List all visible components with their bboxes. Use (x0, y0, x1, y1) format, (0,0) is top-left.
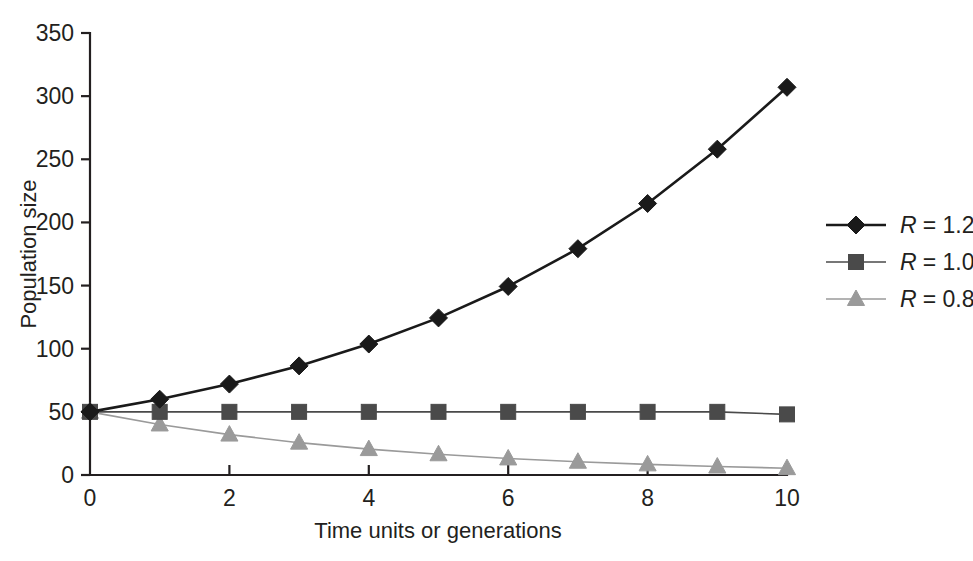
marker-square (640, 404, 655, 419)
chart-figure: 050100150200250300350 0246810 Population… (0, 0, 973, 561)
x-axis-title: Time units or generations (314, 518, 561, 543)
y-tick-label: 0 (61, 462, 74, 488)
y-tick-label: 150 (36, 273, 74, 299)
marker-square (849, 255, 864, 270)
x-tick-label: 6 (502, 485, 515, 511)
chart-background (0, 0, 973, 561)
marker-square (361, 404, 376, 419)
marker-square (570, 404, 585, 419)
legend-value: = 0.8 (923, 286, 973, 312)
y-tick-label: 300 (36, 83, 74, 109)
x-tick-label: 4 (362, 485, 375, 511)
legend-r-symbol: R (900, 286, 917, 312)
x-tick-label: 0 (84, 485, 97, 511)
marker-square (501, 404, 516, 419)
y-tick-label: 50 (48, 399, 74, 425)
legend-label: R= 1.0 (900, 249, 973, 275)
legend-r-symbol: R (900, 249, 917, 275)
y-tick-label: 350 (36, 20, 74, 46)
legend-label: R= 1.2 (900, 212, 973, 238)
marker-square (292, 404, 307, 419)
legend-r-symbol: R (900, 212, 917, 238)
legend-label: R= 0.8 (900, 286, 973, 312)
y-axis-title: Population size (16, 179, 41, 328)
marker-square (431, 404, 446, 419)
legend-value: = 1.0 (923, 249, 973, 275)
x-tick-label: 2 (223, 485, 236, 511)
marker-square (710, 404, 725, 419)
y-tick-label: 250 (36, 146, 74, 172)
population-growth-line-chart: 050100150200250300350 0246810 Population… (0, 0, 973, 561)
x-tick-label: 8 (641, 485, 654, 511)
y-tick-label: 100 (36, 336, 74, 362)
x-tick-label: 10 (774, 485, 800, 511)
y-tick-label: 200 (36, 209, 74, 235)
legend-value: = 1.2 (923, 212, 973, 238)
marker-square (780, 407, 795, 422)
marker-square (222, 404, 237, 419)
